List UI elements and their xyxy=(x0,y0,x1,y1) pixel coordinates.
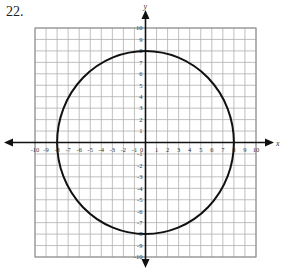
x-axis-left-arrow-icon xyxy=(4,139,13,147)
x-tick-label: -9 xyxy=(43,146,48,153)
x-tick-label: 2 xyxy=(166,146,169,153)
y-tick-label: -9 xyxy=(137,242,142,249)
x-tick-label: -7 xyxy=(65,146,71,153)
y-tick-label: 1 xyxy=(139,127,142,134)
x-tick-label: 7 xyxy=(221,146,225,153)
x-tick-label: 10 xyxy=(253,146,260,153)
y-tick-label: -7 xyxy=(137,219,143,226)
x-tick-label: 6 xyxy=(210,146,214,153)
y-tick-label: 9 xyxy=(139,36,142,43)
x-tick-label: -10 xyxy=(31,146,40,153)
y-tick-label: 5 xyxy=(139,82,142,89)
y-tick-label: -5 xyxy=(137,196,142,203)
x-tick-label: 1 xyxy=(155,146,158,153)
x-tick-label: -2 xyxy=(121,146,126,153)
x-tick-label: 9 xyxy=(243,146,246,153)
coordinate-graph: xy -10-9-8-7-6-5-4-3-2-10123456789101098… xyxy=(0,0,282,271)
y-tick-label: -1 xyxy=(137,150,142,157)
y-tick-label: 10 xyxy=(136,24,143,31)
x-axis-label: x xyxy=(275,139,280,148)
y-tick-label: -10 xyxy=(134,253,143,260)
x-axis-right-arrow-icon xyxy=(265,139,274,147)
x-tick-label: -6 xyxy=(76,146,82,153)
x-tick-label: 5 xyxy=(199,146,202,153)
y-tick-label: 2 xyxy=(139,116,142,123)
y-tick-label: -3 xyxy=(137,173,142,180)
y-axis-label: y xyxy=(143,2,148,11)
x-tick-label: 4 xyxy=(188,146,192,153)
y-tick-label: -2 xyxy=(137,162,142,169)
x-tick-label: -5 xyxy=(88,146,93,153)
y-axis-up-arrow-icon xyxy=(142,10,150,19)
y-tick-label: -4 xyxy=(137,185,143,192)
y-tick-label: -6 xyxy=(137,208,143,215)
y-axis-down-arrow-icon xyxy=(142,259,150,268)
y-tick-label: 3 xyxy=(139,104,142,111)
x-tick-label: -4 xyxy=(99,146,105,153)
x-tick-label: -3 xyxy=(110,146,115,153)
x-tick-label: 3 xyxy=(177,146,180,153)
